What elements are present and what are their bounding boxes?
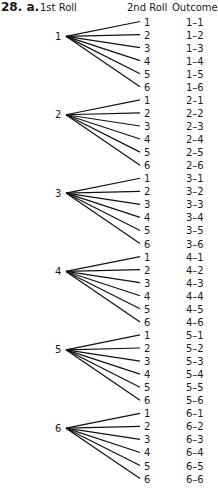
second-roll-label: 1 (144, 173, 150, 184)
second-roll-label: 2 (144, 421, 150, 432)
outcome-label: 1–1 (186, 17, 204, 28)
branch-line (66, 350, 140, 400)
first-roll-label: 2 (55, 109, 61, 120)
branch-line (66, 100, 140, 115)
outcome-label: 1–3 (186, 43, 204, 54)
outcome-label: 6–3 (186, 434, 204, 445)
branch-line (66, 36, 140, 60)
first-roll-label: 4 (55, 266, 61, 277)
outcome-label: 1–2 (186, 30, 204, 41)
outcome-label: 1–5 (186, 69, 204, 80)
tree-diagram: 111–121–231–341–451–561–6212–122–232–342… (0, 0, 218, 497)
second-roll-label: 4 (144, 369, 150, 380)
branch-line (66, 270, 140, 272)
first-roll-label: 3 (55, 188, 61, 199)
second-roll-label: 6 (144, 474, 150, 485)
second-roll-label: 4 (144, 56, 150, 67)
second-roll-label: 1 (144, 17, 150, 28)
outcome-label: 6–5 (186, 461, 204, 472)
outcome-label: 6–2 (186, 421, 204, 432)
outcome-label: 6–1 (186, 408, 204, 419)
branch-line (66, 191, 140, 193)
second-roll-label: 5 (144, 225, 150, 236)
second-roll-label: 2 (144, 108, 150, 119)
second-roll-label: 3 (144, 278, 150, 289)
second-roll-label: 3 (144, 434, 150, 445)
outcome-label: 1–4 (186, 56, 204, 67)
branch-line (66, 35, 140, 37)
outcome-label: 5–2 (186, 343, 204, 354)
second-roll-label: 6 (144, 82, 150, 93)
branch-line (66, 193, 140, 243)
second-roll-label: 1 (144, 408, 150, 419)
second-roll-label: 4 (144, 291, 150, 302)
second-roll-label: 2 (144, 186, 150, 197)
second-roll-label: 6 (144, 395, 150, 406)
outcome-label: 2–3 (186, 121, 204, 132)
second-roll-label: 4 (144, 134, 150, 145)
branch-line (66, 413, 140, 428)
second-roll-label: 5 (144, 147, 150, 158)
second-roll-label: 5 (144, 461, 150, 472)
outcome-label: 4–3 (186, 278, 204, 289)
outcome-label: 2–4 (186, 134, 204, 145)
second-roll-label: 6 (144, 160, 150, 171)
outcome-label: 1–6 (186, 82, 204, 93)
outcome-label: 5–1 (186, 330, 204, 341)
outcome-label: 3–2 (186, 186, 204, 197)
outcome-label: 4–5 (186, 304, 204, 315)
branch-line (66, 36, 140, 86)
outcome-label: 3–3 (186, 199, 204, 210)
branch-line (66, 178, 140, 193)
second-roll-label: 6 (144, 317, 150, 328)
outcome-label: 5–6 (186, 395, 204, 406)
outcome-label: 4–1 (186, 252, 204, 263)
outcome-label: 2–1 (186, 95, 204, 106)
branch-line (66, 271, 140, 295)
outcome-label: 5–4 (186, 369, 204, 380)
second-roll-label: 2 (144, 30, 150, 41)
branch-line (66, 335, 140, 350)
second-roll-label: 4 (144, 212, 150, 223)
second-roll-label: 6 (144, 239, 150, 250)
second-roll-label: 2 (144, 343, 150, 354)
second-roll-label: 3 (144, 356, 150, 367)
outcome-label: 2–2 (186, 108, 204, 119)
branch-line (66, 428, 140, 452)
branch-line (66, 115, 140, 165)
branch-line (66, 348, 140, 350)
second-roll-label: 3 (144, 199, 150, 210)
second-roll-label: 1 (144, 252, 150, 263)
outcome-label: 5–3 (186, 356, 204, 367)
outcome-label: 3–6 (186, 239, 204, 250)
branch-line (66, 113, 140, 115)
outcome-label: 2–5 (186, 147, 204, 158)
second-roll-label: 2 (144, 265, 150, 276)
first-roll-label: 1 (55, 31, 61, 42)
second-roll-label: 3 (144, 43, 150, 54)
outcome-label: 6–4 (186, 447, 204, 458)
second-roll-label: 4 (144, 447, 150, 458)
outcome-label: 3–4 (186, 212, 204, 223)
branch-line (66, 350, 140, 374)
first-roll-label: 6 (55, 423, 61, 434)
first-roll-label: 5 (55, 344, 61, 355)
outcome-label: 4–2 (186, 265, 204, 276)
branch-line (66, 22, 140, 37)
branch-line (66, 115, 140, 139)
outcome-label: 4–4 (186, 291, 204, 302)
branch-line (66, 257, 140, 272)
outcome-label: 4–6 (186, 317, 204, 328)
outcome-label: 3–1 (186, 173, 204, 184)
second-roll-label: 1 (144, 95, 150, 106)
branch-line (66, 426, 140, 428)
second-roll-label: 1 (144, 330, 150, 341)
branch-line (66, 271, 140, 321)
outcome-label: 2–6 (186, 160, 204, 171)
outcome-label: 5–5 (186, 382, 204, 393)
branch-line (66, 193, 140, 217)
second-roll-label: 5 (144, 69, 150, 80)
second-roll-label: 5 (144, 304, 150, 315)
outcome-label: 3–5 (186, 225, 204, 236)
outcome-label: 6–6 (186, 474, 204, 485)
